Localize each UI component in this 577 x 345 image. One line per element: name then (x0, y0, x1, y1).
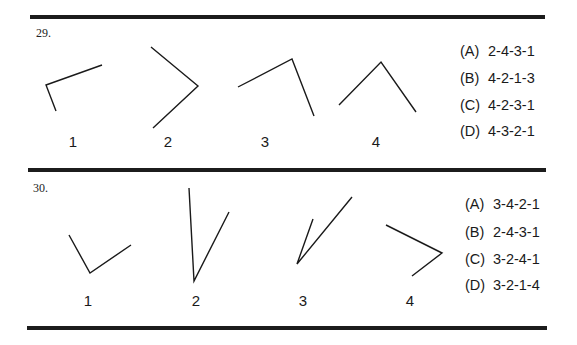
q30-figure-label-3: 3 (293, 292, 313, 309)
option-letter: (D) (460, 123, 488, 139)
option-letter: (A) (460, 43, 488, 59)
option-letter: (C) (465, 251, 493, 267)
option-value: 2-4-3-1 (488, 43, 535, 59)
q29-option-d: (D)4-3-2-1 (460, 123, 535, 139)
q29-figure-4-icon (339, 62, 416, 112)
q29-option-a: (A)2-4-3-1 (460, 43, 535, 59)
option-letter: (B) (460, 70, 488, 86)
q29-figure-label-2: 2 (158, 133, 178, 150)
q29-figure-1-icon (46, 65, 102, 111)
q30-figure-3-icon (297, 197, 352, 264)
q29-figure-label-4: 4 (366, 133, 386, 150)
option-letter: (C) (460, 97, 488, 113)
q30-figure-label-1: 1 (78, 292, 98, 309)
q30-option-d: (D)3-2-1-4 (465, 277, 540, 293)
q30-figure-2-icon (189, 188, 229, 281)
q29-option-c: (C)4-2-3-1 (460, 97, 535, 113)
q29-figure-label-1: 1 (63, 133, 83, 150)
q30-option-a: (A)3-4-2-1 (465, 196, 540, 212)
option-value: 3-2-4-1 (493, 251, 540, 267)
q29-figure-2-icon (151, 47, 198, 128)
option-value: 4-2-3-1 (488, 97, 535, 113)
option-letter: (A) (465, 196, 493, 212)
q29-figure-3-icon (238, 59, 314, 116)
option-value: 3-2-1-4 (493, 277, 540, 293)
option-value: 4-2-1-3 (488, 70, 535, 86)
option-value: 2-4-3-1 (493, 224, 540, 240)
q30-figure-label-2: 2 (186, 292, 206, 309)
option-value: 4-3-2-1 (488, 123, 535, 139)
q30-option-c: (C)3-2-4-1 (465, 251, 540, 267)
q30-figure-1-icon (69, 235, 131, 273)
q29-option-b: (B)4-2-1-3 (460, 70, 535, 86)
q29-figure-label-3: 3 (255, 133, 275, 150)
option-letter: (D) (465, 277, 493, 293)
q30-figure-4-icon (386, 225, 442, 276)
q30-option-b: (B)2-4-3-1 (465, 224, 540, 240)
option-letter: (B) (465, 224, 493, 240)
option-value: 3-4-2-1 (493, 196, 540, 212)
q30-figure-label-4: 4 (400, 292, 420, 309)
